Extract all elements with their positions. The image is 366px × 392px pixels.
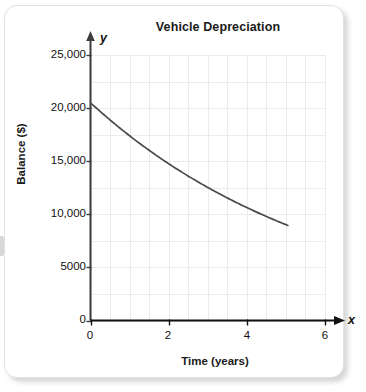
plot-canvas bbox=[0, 0, 366, 392]
screenshot-root: Vehicle Depreciation Balance ($) Time (y… bbox=[0, 0, 366, 392]
axis-ticks bbox=[87, 56, 326, 326]
depreciation-curve bbox=[91, 103, 288, 226]
axes bbox=[86, 31, 345, 325]
y-axis-arrow bbox=[86, 31, 95, 41]
vehicle-depreciation-chart: Vehicle Depreciation Balance ($) Time (y… bbox=[0, 0, 366, 392]
x-axis-arrow bbox=[334, 316, 345, 325]
